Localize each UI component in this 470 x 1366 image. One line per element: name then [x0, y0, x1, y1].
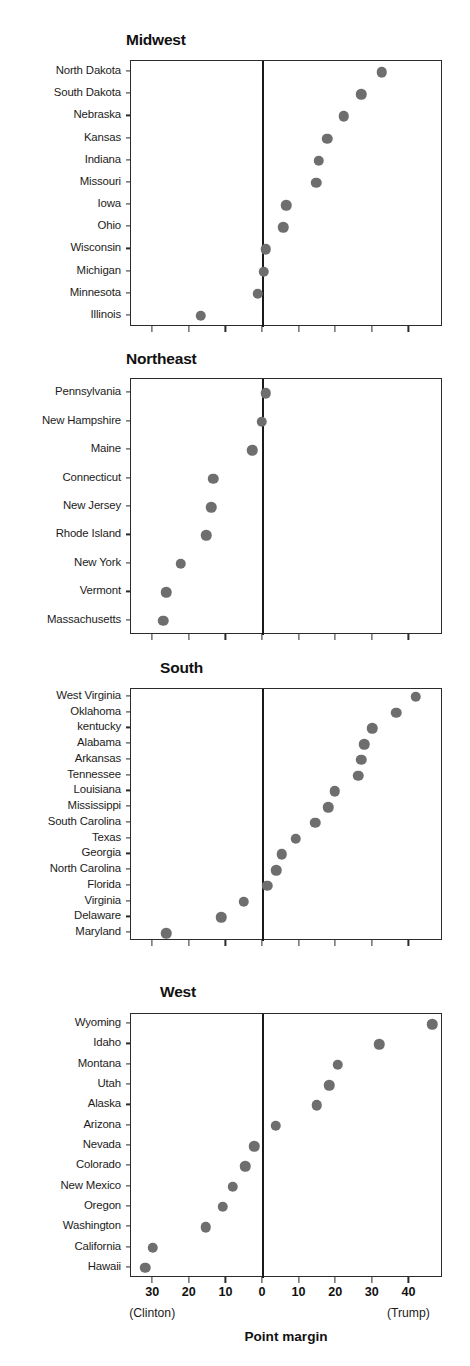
trump-side-label: (Trump) [387, 1306, 430, 1320]
x-axis-tick [408, 940, 409, 946]
x-axis-tick [298, 634, 299, 640]
y-axis-label: Wisconsin [0, 243, 121, 254]
x-axis-tick-label: 40 [401, 1285, 415, 1299]
x-axis-tick [225, 940, 226, 946]
y-axis-label: North Carolina [0, 863, 121, 874]
y-axis-label: Illinois [0, 309, 121, 320]
y-axis-label: Idaho [0, 1038, 121, 1049]
y-axis-label: Arkansas [0, 753, 121, 764]
x-axis-tick [298, 326, 299, 332]
y-axis-label: New Jersey [0, 500, 121, 511]
y-axis-label: Rhode Island [0, 529, 121, 540]
x-axis-tick [408, 1277, 409, 1283]
y-axis-label: Iowa [0, 198, 121, 209]
y-axis-label: Pennsylvania [0, 387, 121, 398]
data-point [238, 896, 249, 907]
y-axis-label: Colorado [0, 1160, 121, 1171]
data-point [249, 1141, 260, 1152]
x-axis-tick [371, 1277, 372, 1283]
y-axis-label: West Virginia [0, 690, 121, 701]
data-point [216, 912, 227, 923]
x-axis-tick [408, 634, 409, 640]
x-axis-tick-label: 30 [365, 1285, 379, 1299]
y-axis-label: Montana [0, 1058, 121, 1069]
data-point [175, 559, 186, 570]
data-point [260, 244, 271, 255]
plot-area [130, 378, 442, 634]
x-axis-tick [261, 634, 262, 640]
data-point [353, 770, 364, 781]
y-axis-label: Wyoming [0, 1017, 121, 1028]
y-axis-label: Alaska [0, 1099, 121, 1110]
y-axis-label: California [0, 1241, 121, 1252]
data-point [228, 1181, 239, 1192]
y-axis-label: Indiana [0, 154, 121, 165]
y-axis-label: Tennessee [0, 769, 121, 780]
data-point [410, 692, 421, 703]
panel-title: West [160, 983, 196, 1001]
x-axis-tick [298, 940, 299, 946]
x-axis-tick [335, 1277, 336, 1283]
y-axis-label: Mississippi [0, 800, 121, 811]
x-axis-tick [371, 634, 372, 640]
x-axis-tick [408, 326, 409, 332]
x-axis-tick [152, 634, 153, 640]
plot-area [130, 60, 442, 326]
x-axis-tick [188, 326, 189, 332]
data-point [323, 802, 334, 813]
plot-area [130, 688, 442, 940]
x-axis-tick [188, 940, 189, 946]
y-axis-label: South Carolina [0, 816, 121, 827]
data-point [252, 289, 263, 300]
data-point [332, 1060, 343, 1071]
y-axis-label: Florida [0, 879, 121, 890]
data-point [201, 530, 212, 541]
y-axis-label: Kansas [0, 132, 121, 143]
data-point [206, 502, 217, 513]
data-point [356, 755, 367, 766]
panel-title: Northeast [126, 350, 197, 368]
data-point [311, 178, 322, 189]
zero-reference-line [262, 689, 264, 941]
y-axis-label: Alabama [0, 737, 121, 748]
x-axis-tick-label: 20 [328, 1285, 342, 1299]
x-axis-tick-label: 20 [182, 1285, 196, 1299]
data-point [367, 723, 378, 734]
x-axis-tick [371, 326, 372, 332]
data-point [312, 1100, 323, 1111]
data-point [148, 1242, 159, 1253]
y-axis-label: Michigan [0, 265, 121, 276]
y-axis-label: Texas [0, 832, 121, 843]
y-axis-label: Utah [0, 1078, 121, 1089]
data-point [271, 865, 282, 876]
y-axis-label: Nebraska [0, 110, 121, 121]
data-point [377, 67, 388, 78]
data-point [217, 1202, 228, 1213]
y-axis-label: Oklahoma [0, 706, 121, 717]
y-axis-label: Washington [0, 1221, 121, 1232]
y-axis-label: South Dakota [0, 88, 121, 99]
plot-area [130, 1013, 442, 1277]
x-axis-tick-label: 10 [292, 1285, 306, 1299]
y-axis-label: Vermont [0, 586, 121, 597]
x-axis-tick [225, 326, 226, 332]
data-point [262, 881, 273, 892]
dot-plot-figure: MidwestNorth DakotaSouth DakotaNebraskaK… [0, 0, 470, 1366]
y-axis-label: Oregon [0, 1200, 121, 1211]
x-axis-tick [225, 1277, 226, 1283]
x-axis-tick [261, 940, 262, 946]
y-axis-label: Connecticut [0, 472, 121, 483]
data-point [247, 445, 258, 456]
data-point [427, 1019, 438, 1030]
x-axis-tick [298, 1277, 299, 1283]
clinton-side-label: (Clinton) [129, 1306, 175, 1320]
data-point [276, 849, 287, 860]
data-point [140, 1263, 151, 1274]
y-axis-label: Arizona [0, 1119, 121, 1130]
x-axis-tick [152, 940, 153, 946]
data-point [161, 587, 172, 598]
y-axis-label: New Hampshire [0, 415, 121, 426]
x-axis-tick [188, 1277, 189, 1283]
data-point [359, 739, 370, 750]
x-axis-tick-label: 30 [145, 1285, 159, 1299]
